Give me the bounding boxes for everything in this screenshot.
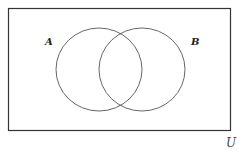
set-a-label: A: [44, 36, 53, 47]
set-b-label: B: [190, 36, 199, 47]
venn-diagram: A B U: [0, 0, 238, 151]
universe-box: [9, 9, 231, 131]
universe-label: U: [226, 136, 237, 150]
